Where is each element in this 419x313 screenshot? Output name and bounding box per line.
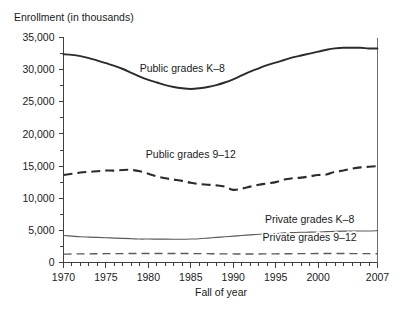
y-tick-label: 20,000 (22, 128, 54, 140)
series-line-private-9-12 (64, 253, 378, 254)
x-axis-ticks (64, 263, 378, 268)
x-tick-label: 1995 (264, 271, 288, 283)
series-annotations: Public grades K–8Public grades K–8Public… (140, 62, 357, 243)
series-label: Public grades K–8 (140, 62, 225, 74)
series-label: Private grades K–8 (265, 213, 354, 225)
y-axis-ticks (59, 38, 64, 263)
x-tick-label: 1980 (137, 271, 161, 283)
x-tick-label: 1990 (222, 271, 246, 283)
series-line-public-9-12 (64, 166, 378, 190)
x-tick-label: 1970 (52, 271, 76, 283)
series-label: Private grades 9–12 (263, 231, 357, 243)
y-tick-label: 25,000 (22, 95, 54, 107)
y-tick-label: 0 (49, 256, 55, 268)
x-axis-title: Fall of year (195, 286, 247, 298)
y-tick-label: 30,000 (22, 63, 54, 75)
y-tick-label: 15,000 (22, 160, 54, 172)
series-label: Public grades 9–12 (146, 148, 236, 160)
x-tick-label: 2007 (366, 271, 390, 283)
x-tick-label: 1985 (179, 271, 203, 283)
y-tick-label: 5,000 (28, 224, 54, 236)
enrollment-line-chart: Enrollment (in thousands) Fall of year 0… (0, 0, 419, 313)
x-axis-tick-labels: 19701975198019851990199520002007 (52, 271, 390, 283)
y-tick-label: 10,000 (22, 192, 54, 204)
y-axis-tick-labels: 05,00010,00015,00020,00025,00030,00035,0… (22, 31, 54, 268)
y-axis-title: Enrollment (in thousands) (14, 11, 134, 23)
x-tick-label: 1975 (94, 271, 118, 283)
y-tick-label: 35,000 (22, 31, 54, 43)
chart-figure: Enrollment (in thousands) Fall of year 0… (0, 0, 419, 313)
x-tick-label: 2000 (306, 271, 330, 283)
